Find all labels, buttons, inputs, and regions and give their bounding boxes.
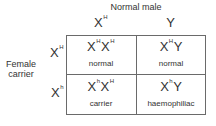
parent-female-label-line1: Female [0, 59, 42, 69]
genotype: XHXH [66, 39, 136, 54]
column-header-y: Y [136, 15, 206, 30]
genotype: XHY [136, 39, 206, 54]
parent-female-label-line2: carrier [0, 69, 42, 79]
parent-male-label: Normal male [66, 2, 206, 12]
row-header-xh: XH [44, 45, 64, 60]
phenotype: carrier [66, 99, 136, 108]
column-header-xh: XH [66, 15, 136, 30]
genotype: XhXH [66, 79, 136, 94]
phenotype: haemophiliac [136, 99, 206, 108]
phenotype: normal [66, 59, 136, 68]
row-header-xh-recessive: Xh [44, 85, 64, 100]
parent-female-label: Female carrier [0, 59, 42, 79]
cell-xhy-haemophiliac: XhY haemophiliac [136, 75, 206, 114]
cell-xhxh-carrier: XhXH carrier [66, 75, 136, 114]
phenotype: normal [136, 59, 206, 68]
cell-xhy-normal: XHY normal [136, 35, 206, 74]
genotype: XhY [136, 79, 206, 94]
cell-xhxh-normal: XHXH normal [66, 35, 136, 74]
